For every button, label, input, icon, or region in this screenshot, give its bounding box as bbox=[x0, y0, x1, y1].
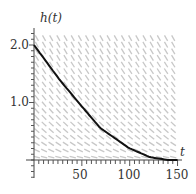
slope-field bbox=[34, 35, 177, 158]
x-axis-label: t bbox=[180, 145, 185, 159]
y-axis-label: h(t) bbox=[40, 11, 62, 25]
y-tick-label-2: 2.0 bbox=[10, 38, 29, 52]
y-tick-label-1: 1.0 bbox=[10, 95, 29, 109]
x-tick-label-100: 100 bbox=[118, 168, 141, 182]
y-axis bbox=[29, 28, 34, 178]
x-axis bbox=[26, 160, 182, 166]
x-tick-label-50: 50 bbox=[72, 168, 87, 182]
slope-field-chart: h(t) t 2.0 1.0 50 100 150 bbox=[0, 0, 196, 194]
x-tick-label-150: 150 bbox=[166, 168, 189, 182]
